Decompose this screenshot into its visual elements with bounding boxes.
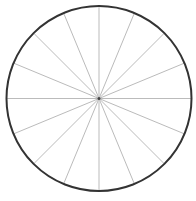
spoke-line: [99, 33, 164, 98]
center-hub: [98, 97, 101, 100]
spoked-circle-diagram: [0, 0, 196, 201]
spoke-line: [34, 33, 99, 98]
spoke-line: [34, 99, 99, 164]
spoke-line: [99, 99, 164, 164]
